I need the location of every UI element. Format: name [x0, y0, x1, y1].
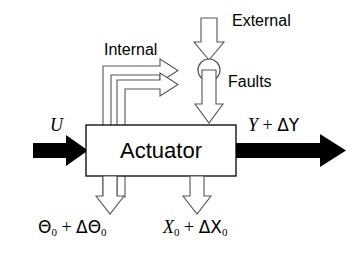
theta-var: Θ	[38, 217, 51, 237]
internal-label: Internal	[104, 42, 157, 58]
fault-arrow-hollow	[195, 70, 223, 123]
output-delta-y: ΔY	[277, 115, 299, 135]
output-plus-op: +	[258, 115, 277, 135]
input-arrow-solid	[33, 135, 88, 166]
x-output-label: X0 + ΔX0	[163, 218, 227, 238]
external-arrow-hollow	[194, 18, 224, 60]
output-y-var: Y	[248, 115, 258, 135]
output-label-y: Y + ΔY	[248, 116, 299, 134]
theta-output-label: Θ0 + ΔΘ0	[38, 218, 107, 238]
input-label-u: U	[50, 116, 63, 134]
theta-delta: ΔΘ	[76, 217, 101, 237]
actuator-block-label: Actuator	[86, 125, 236, 176]
x-delta: ΔX	[199, 217, 222, 237]
actuator-block-diagram: Actuator Internal External Faults U Y + …	[0, 0, 357, 254]
faults-label: Faults	[228, 74, 272, 90]
x-var: X	[163, 217, 174, 237]
x-output-arrow-hollow	[183, 176, 211, 214]
external-label: External	[232, 13, 291, 29]
output-arrow-solid	[236, 134, 346, 167]
theta-delta-subscript: 0	[101, 226, 107, 238]
x-delta-subscript: 0	[222, 226, 228, 238]
x-plus-op: +	[180, 217, 199, 237]
theta-plus-op: +	[57, 217, 76, 237]
